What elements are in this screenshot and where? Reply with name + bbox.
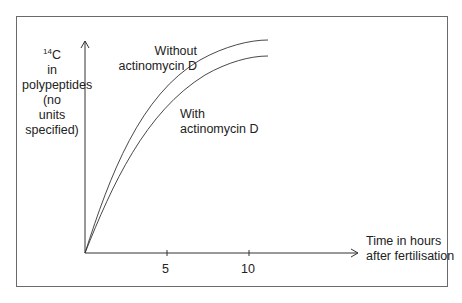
series-with-actinomycin: [85, 56, 268, 253]
y-axis-label: 14C in polypeptides (no units specified): [22, 44, 82, 138]
series-label-line: With: [180, 107, 280, 122]
y-label-line: specified): [22, 123, 82, 138]
y-label-line: (no: [22, 93, 82, 108]
series-label-line: Without: [117, 44, 197, 59]
series-label-with: With actinomycin D: [180, 107, 280, 137]
y-label-line: C: [52, 48, 61, 62]
x-axis-label: Time in hours after fertilisation: [366, 234, 454, 264]
series-label-line: actinomycin D: [117, 59, 197, 74]
series-label-line: actinomycin D: [180, 122, 280, 137]
x-label-line: after fertilisation: [366, 249, 454, 264]
x-label-line: Time in hours: [366, 234, 454, 249]
y-label-line: polypeptides: [22, 78, 82, 93]
x-tick-label-10: 10: [241, 262, 255, 277]
y-label-line: in: [22, 63, 82, 78]
series-label-without: Without actinomycin D: [117, 44, 197, 74]
y-label-line: units: [22, 108, 82, 123]
x-tick-label-5: 5: [162, 262, 169, 277]
isotope-superscript: 14: [43, 47, 52, 56]
